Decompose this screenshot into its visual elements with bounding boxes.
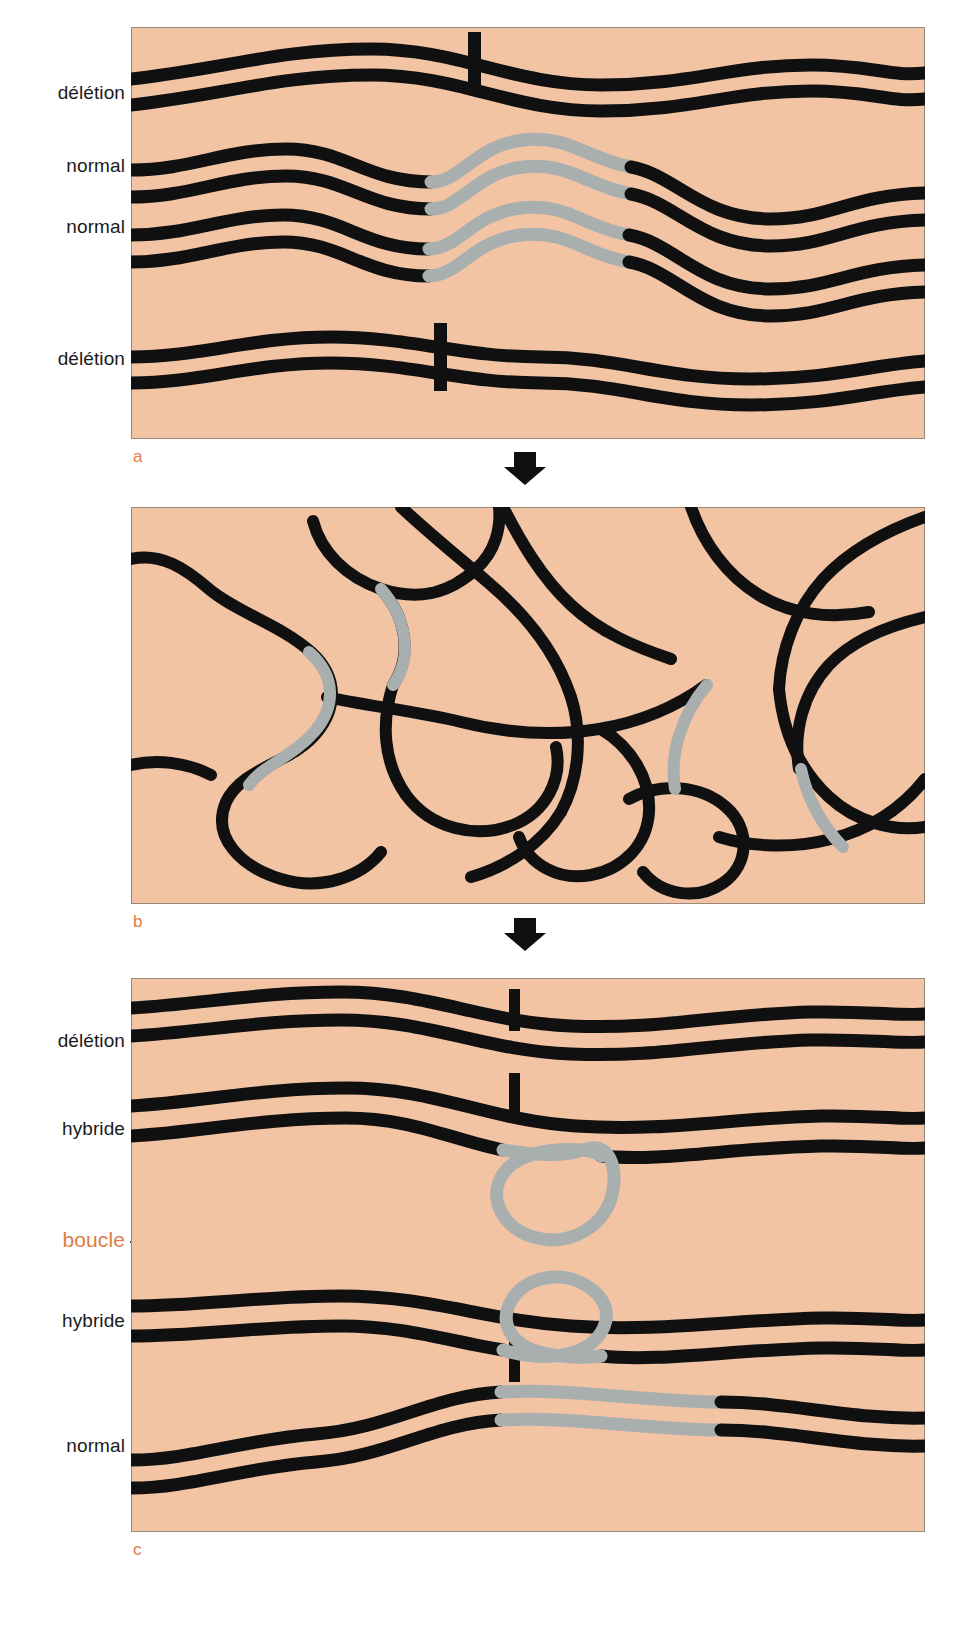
deletion-tick-c-1 [509, 989, 520, 1031]
arrow-b-to-c [503, 918, 547, 952]
label-panel-a-deletion-top: délétion [0, 82, 125, 104]
heteroduplex-figure: délétion normal normal délétion [0, 0, 957, 1646]
panel-c-canvas [131, 978, 925, 1532]
panel-a-canvas [131, 27, 925, 439]
label-panel-a-normal-lower: normal [0, 216, 125, 238]
panel-b [131, 507, 925, 904]
panel-c [131, 978, 925, 1532]
label-panel-c-hybride-lower: hybride [0, 1310, 125, 1332]
label-panel-c-hybride-upper: hybride [0, 1118, 125, 1140]
label-panel-a-deletion-bottom: délétion [0, 348, 125, 370]
panel-letter-c: c [133, 1540, 142, 1560]
panel-letter-b: b [133, 912, 142, 932]
arrow-down-icon [503, 452, 547, 486]
label-panel-c-boucle: boucle [0, 1228, 125, 1252]
panel-letter-a: a [133, 447, 142, 467]
arrow-a-to-b [503, 452, 547, 486]
label-panel-c-deletion: délétion [0, 1030, 125, 1052]
panel-a [131, 27, 925, 439]
arrow-down-icon [503, 918, 547, 952]
deletion-tick-bottom [434, 323, 447, 391]
deletion-tick-top [468, 32, 481, 94]
label-panel-c-normal: normal [0, 1435, 125, 1457]
panel-b-canvas [131, 507, 925, 904]
label-panel-a-normal-upper: normal [0, 155, 125, 177]
deletion-tick-c-2 [509, 1073, 520, 1113]
